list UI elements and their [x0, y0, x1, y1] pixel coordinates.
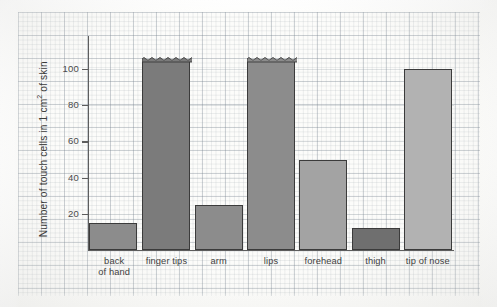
bar-back-of-hand — [89, 223, 137, 250]
y-axis-title: Number of touch cells in 1 cm2 of skin — [36, 47, 48, 252]
y-axis-title-suffix: of skin — [38, 61, 49, 94]
y-tick-80 — [82, 105, 89, 106]
y-tick-label-20: 20 — [68, 208, 79, 219]
y-tick-label-40: 40 — [68, 172, 79, 183]
category-label-line: of hand — [82, 267, 146, 278]
broken-axis-wave-finger-tips — [142, 55, 192, 63]
category-label-tip-of-nose: tip of nose — [396, 256, 460, 267]
bar-tip-of-nose — [404, 69, 452, 250]
bar-arm — [195, 205, 243, 250]
category-label-line: tip of nose — [396, 256, 460, 267]
y-tick-label-100: 100 — [63, 63, 79, 74]
bar-lips — [247, 60, 295, 250]
x-axis-line — [88, 250, 454, 251]
bar-chart: Number of touch cells in 1 cm2 of skin 2… — [0, 0, 497, 307]
y-tick-100 — [82, 69, 89, 70]
y-axis-title-prefix: Number of touch cells in 1 cm — [38, 99, 49, 238]
y-axis-title-exponent: 2 — [36, 95, 43, 99]
bar-thigh — [352, 228, 400, 250]
bar-forehead — [299, 160, 347, 251]
y-tick-20 — [82, 214, 89, 215]
y-tick-label-60: 60 — [68, 135, 79, 146]
y-tick-40 — [82, 178, 89, 179]
y-tick-label-80: 80 — [68, 99, 79, 110]
broken-axis-wave-lips — [247, 55, 297, 63]
bar-finger-tips — [142, 60, 190, 250]
y-tick-60 — [82, 141, 89, 142]
